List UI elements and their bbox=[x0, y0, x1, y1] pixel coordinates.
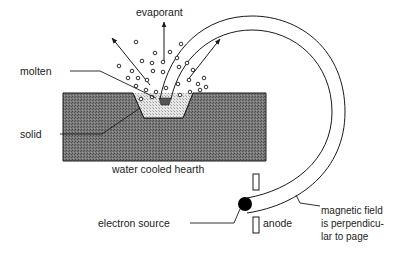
evaporant-particle bbox=[144, 88, 148, 92]
evaporant-particle bbox=[176, 82, 180, 86]
evaporant-arrow-right bbox=[187, 39, 220, 81]
evaporant-particle bbox=[117, 64, 121, 68]
source-leader bbox=[190, 209, 240, 223]
label-evaporant: evaporant bbox=[136, 6, 183, 18]
label-molten: molten bbox=[20, 65, 52, 77]
beam-impact-spot bbox=[159, 98, 171, 105]
evaporant-particle bbox=[187, 78, 191, 82]
evaporant-particle bbox=[139, 97, 143, 101]
evaporant-particle bbox=[161, 60, 165, 64]
evaporant-particle bbox=[145, 78, 149, 82]
evaporant-particle bbox=[204, 85, 208, 89]
evaporant-particle bbox=[150, 61, 154, 65]
evaporant-particle bbox=[134, 40, 138, 44]
evaporant-particle bbox=[140, 59, 144, 63]
evaporant-particle bbox=[175, 56, 179, 60]
evaporant-particle bbox=[136, 76, 140, 80]
evaporant-particle bbox=[154, 90, 158, 94]
electron-source-icon bbox=[238, 197, 252, 211]
evaporant-particle bbox=[191, 68, 195, 72]
anode-plate-top bbox=[253, 174, 259, 190]
evaporant-particle bbox=[164, 86, 168, 90]
evaporant-particle bbox=[153, 51, 157, 55]
label-magnetic-field-3: lar to page bbox=[321, 231, 369, 242]
label-magnetic-field-2: is perpendicu- bbox=[321, 218, 384, 229]
evaporant-particle bbox=[185, 61, 189, 65]
label-solid: solid bbox=[20, 128, 42, 140]
evaporant-particle bbox=[168, 50, 172, 54]
evaporant-particle bbox=[196, 82, 200, 86]
label-magnetic-field-1: magnetic field bbox=[321, 205, 383, 216]
evaporant-particle bbox=[202, 76, 206, 80]
evaporant-particle bbox=[177, 65, 181, 69]
evaporant-particle bbox=[179, 42, 183, 46]
label-anode: anode bbox=[263, 217, 292, 229]
evaporant-particle bbox=[198, 88, 202, 92]
evaporant-arrow-left bbox=[112, 38, 150, 85]
evaporant-particle bbox=[130, 69, 134, 73]
evaporant-particle bbox=[188, 90, 192, 94]
anode-plate-bottom bbox=[253, 217, 259, 233]
evaporant-particle bbox=[151, 69, 155, 73]
evaporant-particle bbox=[126, 76, 130, 80]
evaporant-particle bbox=[178, 93, 182, 97]
evaporant-particle bbox=[161, 70, 165, 74]
label-hearth: water cooled hearth bbox=[111, 163, 204, 175]
evaporant-particles bbox=[117, 40, 208, 101]
field-leader bbox=[296, 195, 320, 206]
label-electron-source: electron source bbox=[98, 217, 170, 229]
electron-beam-evaporation-diagram: evaporant molten solid water cooled hear… bbox=[0, 0, 407, 255]
